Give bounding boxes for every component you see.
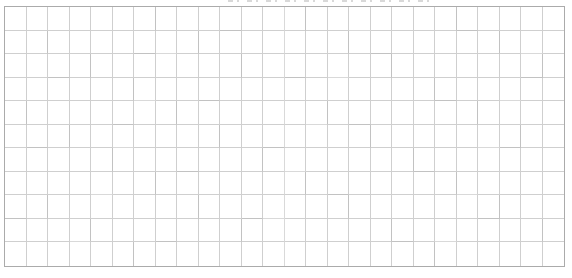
grid-cell (5, 101, 27, 125)
grid-cell (543, 125, 565, 149)
grid-cell (328, 125, 350, 149)
grid-cell (48, 125, 70, 149)
grid-cell (220, 31, 242, 55)
grid-cell (500, 148, 522, 172)
grid-cell (435, 148, 457, 172)
grid-cell (263, 172, 285, 196)
grid-cell (306, 172, 328, 196)
grid-cell (242, 101, 264, 125)
grid-cell (134, 219, 156, 243)
grid-cell (328, 219, 350, 243)
grid-cell (306, 54, 328, 78)
grid-cell (371, 219, 393, 243)
grid-cell (242, 195, 264, 219)
grid-cell (414, 172, 436, 196)
grid-cell (306, 31, 328, 55)
grid-cell (371, 31, 393, 55)
grid-cell (263, 7, 285, 31)
grid-cell (242, 148, 264, 172)
grid-cell (457, 195, 479, 219)
grid-cell (48, 219, 70, 243)
grid-cell (285, 148, 307, 172)
grid-cell (242, 172, 264, 196)
grid-cell (414, 78, 436, 102)
grid-cell (177, 148, 199, 172)
grid-cell (242, 125, 264, 149)
grid-cell (242, 7, 264, 31)
grid-cell (478, 31, 500, 55)
grid-paper (4, 6, 565, 267)
grid-cell (263, 31, 285, 55)
grid-cell (134, 78, 156, 102)
grid-cell (435, 242, 457, 266)
grid-cell (392, 31, 414, 55)
grid-cell (27, 101, 49, 125)
grid-cell (435, 101, 457, 125)
grid-cell (113, 148, 135, 172)
grid-cell (91, 7, 113, 31)
grid-cell (156, 148, 178, 172)
grid-cell (328, 172, 350, 196)
grid-cell (177, 195, 199, 219)
grid-cell (199, 7, 221, 31)
grid-cell (457, 125, 479, 149)
grid-cell (5, 172, 27, 196)
grid-cell (285, 172, 307, 196)
grid-cell (349, 242, 371, 266)
grid-cell (500, 54, 522, 78)
grid-cell (414, 219, 436, 243)
grid-cell (70, 54, 92, 78)
grid-cell (177, 172, 199, 196)
grid-cell (70, 219, 92, 243)
grid-cell (156, 195, 178, 219)
grid-cell (91, 172, 113, 196)
grid-cell (306, 78, 328, 102)
grid-cell (500, 242, 522, 266)
grid-cell (113, 78, 135, 102)
grid-cell (435, 125, 457, 149)
grid-cell (500, 7, 522, 31)
grid-cell (242, 219, 264, 243)
grid-cell (414, 242, 436, 266)
grid-cell (48, 7, 70, 31)
grid-cell (392, 172, 414, 196)
grid-cell (478, 7, 500, 31)
grid-cell (349, 125, 371, 149)
grid-cell (457, 54, 479, 78)
grid-cell (457, 7, 479, 31)
grid-cell (349, 148, 371, 172)
grid-cell (414, 195, 436, 219)
grid-cell (521, 242, 543, 266)
grid-cell (435, 195, 457, 219)
grid-cell (70, 195, 92, 219)
grid-cell (48, 148, 70, 172)
grid-cell (199, 219, 221, 243)
grid-cell (242, 54, 264, 78)
grid-cell (91, 78, 113, 102)
grid-cell (134, 7, 156, 31)
grid-cell (70, 31, 92, 55)
grid-cell (156, 219, 178, 243)
grid-cell (478, 54, 500, 78)
grid-cell (521, 54, 543, 78)
grid-cell (543, 172, 565, 196)
grid-cell (27, 219, 49, 243)
grid-cell (543, 78, 565, 102)
grid-cell (5, 195, 27, 219)
grid-cell (521, 148, 543, 172)
grid-cell (134, 242, 156, 266)
grid-cell (242, 31, 264, 55)
grid-cell (220, 54, 242, 78)
grid-cell (27, 242, 49, 266)
grid-cell (113, 195, 135, 219)
grid-cell (177, 219, 199, 243)
grid-cell (328, 7, 350, 31)
grid-cell (220, 125, 242, 149)
grid-cell (134, 101, 156, 125)
grid-cell (478, 78, 500, 102)
grid-cell (349, 78, 371, 102)
grid-cell (156, 172, 178, 196)
grid-cell (306, 101, 328, 125)
grid-cell (435, 31, 457, 55)
grid-cell (478, 125, 500, 149)
